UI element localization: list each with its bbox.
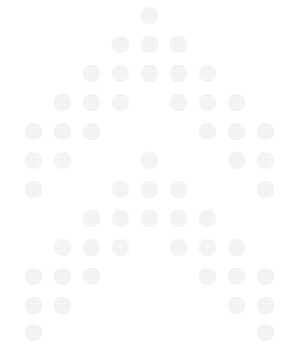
matrix-dot [199, 123, 216, 140]
matrix-dot [228, 123, 245, 140]
matrix-dot [228, 94, 245, 111]
matrix-dot [83, 123, 100, 140]
matrix-dot [257, 152, 274, 169]
matrix-dot [54, 152, 71, 169]
matrix-dot [199, 94, 216, 111]
matrix-dot [112, 65, 129, 82]
matrix-dot [199, 210, 216, 227]
matrix-dot [170, 239, 187, 256]
matrix-dot [83, 210, 100, 227]
matrix-dot [199, 239, 216, 256]
matrix-dot [25, 181, 42, 198]
matrix-dot [25, 152, 42, 169]
matrix-dot [25, 297, 42, 314]
matrix-dot [141, 210, 158, 227]
matrix-dot [112, 239, 129, 256]
matrix-dot [141, 152, 158, 169]
matrix-dot [170, 36, 187, 53]
matrix-dot [141, 7, 158, 24]
matrix-dot [228, 268, 245, 285]
matrix-dot [25, 123, 42, 140]
matrix-dot [54, 239, 71, 256]
matrix-dot [199, 65, 216, 82]
matrix-dot [257, 324, 274, 341]
matrix-dot [228, 239, 245, 256]
matrix-dot [257, 181, 274, 198]
matrix-dot [25, 268, 42, 285]
matrix-dot [199, 268, 216, 285]
matrix-dot [170, 94, 187, 111]
matrix-dot [170, 65, 187, 82]
matrix-dot [257, 297, 274, 314]
matrix-dot [83, 268, 100, 285]
matrix-dot [54, 297, 71, 314]
matrix-dot [257, 123, 274, 140]
matrix-dot [170, 181, 187, 198]
matrix-dot [112, 210, 129, 227]
matrix-dot [25, 324, 42, 341]
matrix-dot [54, 268, 71, 285]
matrix-dot [83, 239, 100, 256]
matrix-dot [141, 36, 158, 53]
matrix-dot [228, 297, 245, 314]
matrix-dot [141, 181, 158, 198]
matrix-dot [112, 181, 129, 198]
matrix-dot [54, 123, 71, 140]
matrix-dot [112, 94, 129, 111]
matrix-dot [83, 65, 100, 82]
dot-matrix-canvas [0, 0, 298, 345]
matrix-dot [141, 65, 158, 82]
matrix-dot [112, 36, 129, 53]
matrix-dot [83, 94, 100, 111]
matrix-dot [257, 268, 274, 285]
matrix-dot [54, 94, 71, 111]
matrix-dot [228, 152, 245, 169]
matrix-dot [170, 210, 187, 227]
